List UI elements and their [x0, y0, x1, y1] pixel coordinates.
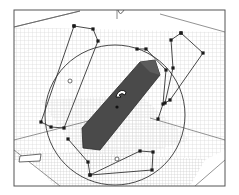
control-point[interactable] [49, 125, 52, 128]
control-point[interactable] [151, 150, 154, 153]
control-point[interactable] [169, 38, 172, 41]
control-point[interactable] [39, 120, 42, 123]
marker-bottom[interactable] [115, 157, 119, 161]
control-point[interactable] [201, 51, 204, 54]
control-point[interactable] [91, 27, 94, 30]
control-point[interactable] [72, 24, 75, 27]
control-point[interactable] [66, 137, 69, 140]
control-point[interactable] [156, 117, 159, 120]
marker-left[interactable] [68, 79, 72, 83]
control-point[interactable] [161, 102, 164, 105]
control-point[interactable] [96, 39, 99, 42]
control-point[interactable] [164, 68, 167, 71]
control-point[interactable] [144, 47, 147, 50]
control-point[interactable] [171, 66, 174, 69]
scene-canvas[interactable] [0, 0, 239, 195]
pivot-point[interactable] [115, 105, 118, 108]
control-point[interactable] [88, 173, 91, 176]
control-point[interactable] [135, 47, 138, 50]
3d-viewport[interactable] [0, 0, 239, 195]
control-point[interactable] [179, 31, 182, 34]
control-point[interactable] [138, 149, 141, 152]
control-point[interactable] [86, 160, 89, 163]
control-point[interactable] [150, 168, 153, 171]
control-point[interactable] [62, 126, 65, 129]
control-point[interactable] [168, 98, 171, 101]
